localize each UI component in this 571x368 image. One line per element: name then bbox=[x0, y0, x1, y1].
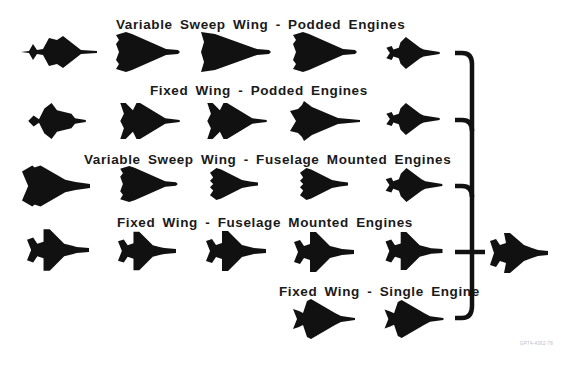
aircraft-icon bbox=[293, 168, 355, 200]
aircraft-icon bbox=[383, 37, 443, 69]
aircraft-icon bbox=[290, 100, 360, 142]
aircraft-icon bbox=[115, 32, 181, 72]
aircraft-icon bbox=[292, 32, 358, 72]
aircraft-icon bbox=[383, 168, 445, 202]
aircraft-icon bbox=[25, 103, 89, 139]
aircraft-icon bbox=[118, 166, 180, 202]
result-aircraft-icon bbox=[490, 232, 548, 274]
aircraft-icon bbox=[383, 232, 445, 270]
aircraft-icon bbox=[118, 231, 176, 271]
aircraft-icon bbox=[203, 168, 265, 200]
aircraft-icon bbox=[205, 103, 269, 139]
aircraft-icon bbox=[205, 231, 267, 271]
aircraft-icon bbox=[200, 32, 272, 72]
aircraft-icon bbox=[383, 103, 443, 135]
aircraft-icon bbox=[22, 163, 90, 209]
aircraft-icon bbox=[118, 103, 182, 139]
aircraft-icon bbox=[383, 300, 445, 338]
figure-reference-code: GP74-4362-78 bbox=[520, 341, 553, 346]
aircraft-icon bbox=[293, 298, 355, 340]
aircraft-icon bbox=[293, 232, 355, 272]
aircraft-icon bbox=[27, 228, 89, 272]
aircraft-icon bbox=[20, 32, 98, 72]
